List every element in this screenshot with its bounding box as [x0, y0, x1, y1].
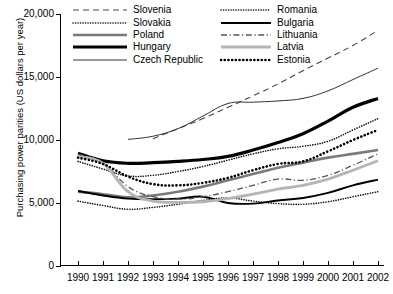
chart-container: Purchasing power parities (US dollars pe…: [0, 0, 393, 294]
legend-item-romania[interactable]: Romania: [220, 5, 372, 15]
legend-label: Slovenia: [133, 5, 171, 15]
y-axis-tick-labels: 05,00010,00015,00020,000: [8, 0, 54, 294]
y-tick-label: 10,000: [8, 135, 54, 145]
legend-label: Romania: [277, 5, 317, 15]
x-tick-mark: [153, 261, 154, 266]
legend-label: Czech Republic: [133, 55, 203, 65]
x-tick-mark: [128, 261, 129, 266]
y-tick-label: 15,000: [8, 72, 54, 82]
legend-swatch-icon: [220, 18, 272, 28]
y-tick-mark: [56, 266, 61, 267]
legend-item-czech-republic[interactable]: Czech Republic: [72, 55, 220, 65]
legend-swatch-icon: [72, 5, 128, 15]
legend-item-hungary[interactable]: Hungary: [72, 42, 220, 52]
x-tick-mark: [328, 261, 329, 266]
legend-label: Poland: [133, 30, 164, 40]
legend-item-estonia[interactable]: Estonia: [220, 55, 372, 65]
legend-label: Hungary: [133, 42, 171, 52]
legend-swatch-icon: [220, 30, 272, 40]
legend-item-lithuania[interactable]: Lithuania: [220, 30, 372, 40]
x-tick-mark: [353, 261, 354, 266]
x-tick-mark: [378, 261, 379, 266]
legend-label: Slovakia: [133, 18, 171, 28]
x-tick-mark: [178, 261, 179, 266]
x-axis-tick-labels: 1990199119921993199419951996199719981999…: [52, 272, 393, 292]
x-tick-mark: [203, 261, 204, 266]
legend-label: Lithuania: [277, 30, 318, 40]
legend-item-slovakia[interactable]: Slovakia: [72, 18, 220, 28]
y-tick-mark: [56, 14, 61, 15]
legend-item-poland[interactable]: Poland: [72, 30, 220, 40]
legend-item-latvia[interactable]: Latvia: [220, 42, 372, 52]
legend-swatch-icon: [72, 30, 128, 40]
line-series-hungary: [78, 98, 378, 163]
y-tick-label: 5,000: [8, 198, 54, 208]
x-tick-mark: [103, 261, 104, 266]
chart-legend: SloveniaRomaniaSlovakiaBulgariaPolandLit…: [72, 4, 372, 66]
x-tick-label: 2002: [358, 272, 393, 283]
x-tick-mark: [78, 261, 79, 266]
line-series-romania: [78, 192, 378, 210]
legend-label: Bulgaria: [277, 18, 314, 28]
x-tick-mark: [303, 261, 304, 266]
legend-swatch-icon: [72, 18, 128, 28]
x-tick-mark: [278, 261, 279, 266]
legend-label: Estonia: [277, 55, 310, 65]
y-tick-mark: [56, 203, 61, 204]
x-tick-mark: [253, 261, 254, 266]
legend-item-slovenia[interactable]: Slovenia: [72, 5, 220, 15]
y-tick-mark: [56, 140, 61, 141]
legend-swatch-icon: [72, 55, 128, 65]
legend-swatch-icon: [220, 42, 272, 52]
legend-item-bulgaria[interactable]: Bulgaria: [220, 18, 372, 28]
legend-label: Latvia: [277, 42, 304, 52]
legend-swatch-icon: [220, 5, 272, 15]
line-series-czech-republic: [128, 68, 378, 139]
legend-swatch-icon: [220, 55, 272, 65]
x-tick-mark: [228, 261, 229, 266]
line-series-slovakia: [78, 119, 378, 177]
y-tick-mark: [56, 77, 61, 78]
legend-swatch-icon: [72, 42, 128, 52]
y-tick-label: 20,000: [8, 9, 54, 19]
y-tick-label: 0: [8, 261, 54, 271]
